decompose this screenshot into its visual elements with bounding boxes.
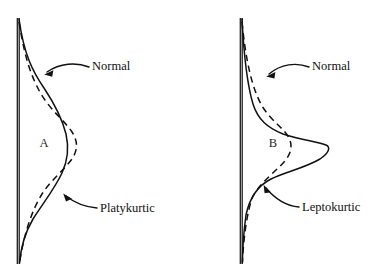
panel-a-platykurtic-leader — [66, 196, 97, 208]
panel-a-letter: A — [39, 136, 48, 150]
panel-b-letter: B — [269, 136, 277, 150]
panel-b-normal-curve — [242, 22, 291, 262]
panel-b: Normal Leptokurtic B — [240, 18, 360, 264]
figure-canvas: Normal Platykurtic A Normal Leptok — [0, 0, 389, 272]
panel-b-leptokurtic-arrow-icon — [264, 185, 271, 193]
kurtosis-figure: Normal Platykurtic A Normal Leptok — [0, 0, 389, 272]
panel-a-platykurtic-arrow-icon — [63, 194, 72, 202]
panel-b-normal-label: Normal — [312, 59, 351, 73]
panel-a: Normal Platykurtic A — [17, 18, 155, 264]
panel-b-leptokurtic-leader — [266, 188, 299, 207]
panel-b-leptokurtic-curve — [242, 19, 329, 263]
panel-b-leptokurtic-label: Leptokurtic — [302, 200, 361, 214]
panel-a-platykurtic-label: Platykurtic — [100, 201, 155, 215]
panel-a-normal-leader — [47, 64, 89, 72]
panel-a-normal-label: Normal — [92, 59, 131, 73]
